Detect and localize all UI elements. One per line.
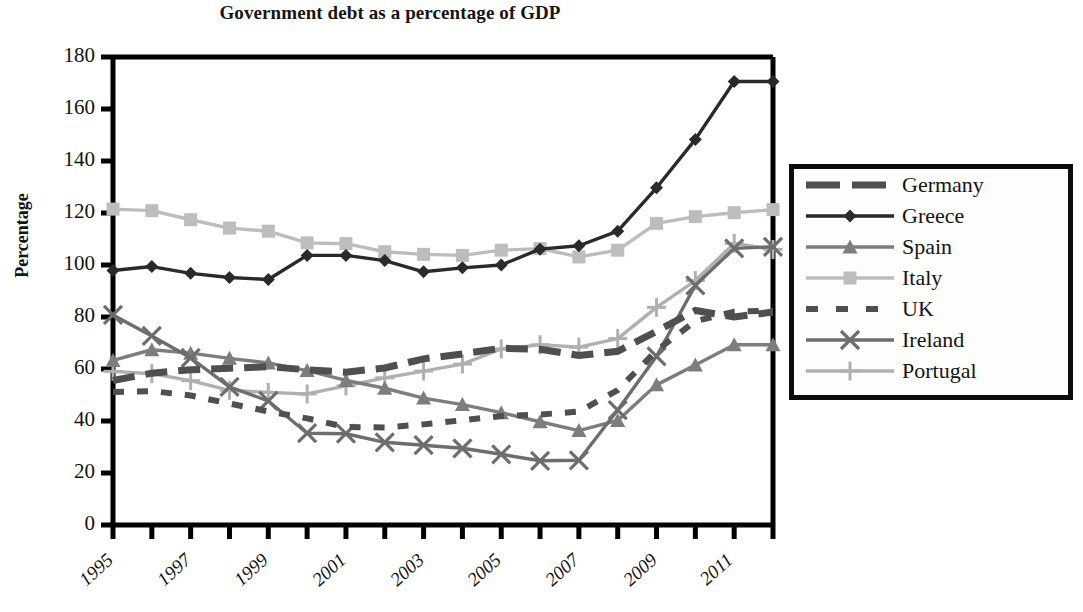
marker-square bbox=[689, 210, 702, 223]
marker-square bbox=[301, 236, 314, 249]
legend-item-portugal[interactable]: Portugal bbox=[794, 355, 1068, 386]
legend-swatch bbox=[802, 358, 898, 384]
marker-diamond bbox=[417, 265, 430, 278]
marker-square bbox=[650, 217, 663, 230]
marker-square bbox=[107, 203, 120, 216]
marker-diamond bbox=[572, 239, 585, 252]
legend-swatch bbox=[802, 296, 898, 322]
marker-diamond bbox=[184, 267, 197, 280]
legend-label: Portugal bbox=[898, 360, 977, 382]
marker-diamond bbox=[844, 209, 857, 222]
series-line bbox=[113, 81, 773, 279]
series-italy bbox=[107, 203, 780, 264]
legend-swatch bbox=[802, 327, 898, 353]
marker-square bbox=[495, 244, 508, 257]
marker-square bbox=[223, 222, 236, 235]
legend-item-spain[interactable]: Spain bbox=[794, 231, 1068, 262]
legend-item-italy[interactable]: Italy bbox=[794, 262, 1068, 293]
marker-square bbox=[844, 271, 857, 284]
legend-item-greece[interactable]: Greece bbox=[794, 200, 1068, 231]
marker-square bbox=[456, 249, 469, 262]
legend-label: Ireland bbox=[898, 329, 964, 351]
marker-triangle bbox=[649, 377, 664, 391]
marker-diamond bbox=[339, 249, 352, 262]
legend-swatch bbox=[802, 265, 898, 291]
legend-item-uk[interactable]: UK bbox=[794, 293, 1068, 324]
marker-diamond bbox=[223, 271, 236, 284]
marker-square bbox=[417, 248, 430, 261]
legend-label: Greece bbox=[898, 205, 964, 227]
legend-item-germany[interactable]: Germany bbox=[794, 169, 1068, 200]
series-spain bbox=[106, 337, 781, 437]
legend-swatch bbox=[802, 172, 898, 198]
legend-label: Spain bbox=[898, 236, 952, 258]
chart-figure: Government debt as a percentage of GDP P… bbox=[0, 0, 1083, 612]
marker-diamond bbox=[495, 259, 508, 272]
marker-square bbox=[611, 244, 624, 257]
series-line bbox=[113, 311, 773, 381]
legend-label: Italy bbox=[898, 267, 942, 289]
series-line bbox=[113, 209, 773, 257]
chart-legend: GermanyGreeceSpainItalyUKIrelandPortugal bbox=[789, 164, 1073, 400]
series-germany bbox=[113, 311, 773, 381]
marker-square bbox=[184, 213, 197, 226]
legend-swatch bbox=[802, 234, 898, 260]
marker-square bbox=[767, 203, 780, 216]
marker-square bbox=[262, 225, 275, 238]
marker-square bbox=[728, 206, 741, 219]
legend-label: UK bbox=[898, 298, 934, 320]
marker-diamond bbox=[145, 260, 158, 273]
legend-label: Germany bbox=[898, 174, 984, 196]
marker-diamond bbox=[767, 75, 780, 88]
marker-square bbox=[145, 204, 158, 217]
legend-swatch bbox=[802, 203, 898, 229]
chart-axes bbox=[113, 57, 773, 525]
legend-item-ireland[interactable]: Ireland bbox=[794, 324, 1068, 355]
marker-triangle bbox=[688, 358, 703, 372]
marker-diamond bbox=[456, 261, 469, 274]
marker-square bbox=[339, 237, 352, 250]
marker-square bbox=[572, 250, 585, 263]
